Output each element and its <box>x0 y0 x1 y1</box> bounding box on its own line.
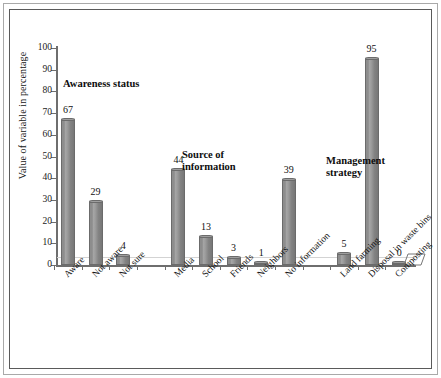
y-axis-tick-label: 80 <box>22 86 52 96</box>
bar <box>171 170 185 265</box>
group-annotation-1: Awareness status <box>63 78 139 90</box>
x-axis-tick-mark <box>385 265 386 270</box>
bar-top-cap <box>199 235 213 238</box>
y-axis-tick-value: 50 <box>28 152 52 162</box>
y-axis-tick-label: 50 <box>22 152 52 162</box>
y-axis-tick-value: 80 <box>28 86 52 96</box>
x-axis-tick-mark <box>109 265 110 270</box>
bar-value-label: 13 <box>189 222 223 232</box>
bar-value-label: 5 <box>327 239 361 249</box>
group-annotation-3: Management strategy <box>326 155 385 178</box>
figure: Value of variable in percentage 01020304… <box>0 0 441 378</box>
y-axis-tick-value: 90 <box>28 65 52 75</box>
y-axis-tick-value: 30 <box>28 195 52 205</box>
bar-top-cap <box>61 118 75 121</box>
x-axis-tick-mark <box>165 265 166 270</box>
x-axis-tick-mark <box>303 265 304 270</box>
group-annotation-2: Source of information <box>182 149 236 172</box>
bar-value-label: 29 <box>79 187 113 197</box>
y-axis-tick-value: 60 <box>28 130 52 140</box>
bar-top-cap <box>227 256 241 259</box>
bar-chart-plot-area: Value of variable in percentage 01020304… <box>0 0 441 378</box>
bar <box>61 120 75 265</box>
bar-top-cap <box>89 200 103 203</box>
x-axis-tick-mark <box>137 265 138 270</box>
y-axis-tick-label: 10 <box>22 238 52 248</box>
bar-value-label: 67 <box>51 105 85 115</box>
x-axis-tick-mark <box>330 265 331 270</box>
y-axis-tick-label: 20 <box>22 217 52 227</box>
x-axis-tick-mark <box>358 265 359 270</box>
y-axis-line <box>56 46 58 266</box>
x-axis-tick-mark <box>275 265 276 270</box>
x-axis-tick-mark <box>54 265 55 270</box>
y-axis-tick-label: 30 <box>22 195 52 205</box>
bar-top-cap <box>282 178 296 181</box>
y-axis-tick-value: 70 <box>28 108 52 118</box>
y-axis-tick-label: 0 <box>22 260 52 270</box>
bar-top-cap <box>337 252 351 255</box>
y-axis-tick-label: 100 <box>22 43 52 53</box>
y-axis-tick-label: 40 <box>22 173 52 183</box>
x-axis-tick-mark <box>82 265 83 270</box>
y-axis-tick-value: 20 <box>28 217 52 227</box>
x-axis-tick-mark <box>192 265 193 270</box>
y-axis-tick-label: 70 <box>22 108 52 118</box>
y-axis-tick-value: 100 <box>28 43 52 53</box>
y-axis-tick-label: 60 <box>22 130 52 140</box>
bar-value-label: 95 <box>355 44 389 54</box>
y-axis-tick-value: 10 <box>28 238 52 248</box>
x-axis-tick-mark <box>247 265 248 270</box>
bar <box>89 202 103 265</box>
x-axis-tick-mark <box>220 265 221 270</box>
bar-top-cap <box>365 57 379 60</box>
y-axis-tick-value: 0 <box>28 260 52 270</box>
y-axis-tick-value: 40 <box>28 173 52 183</box>
y-axis-tick-label: 90 <box>22 65 52 75</box>
bar-value-label: 39 <box>272 165 306 175</box>
